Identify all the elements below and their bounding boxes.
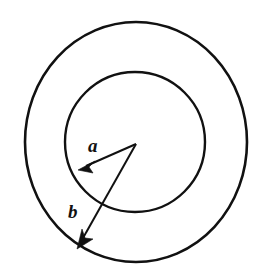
inner-circle bbox=[65, 72, 205, 212]
annulus-figure: Annulus with inner radius a and outer ra… bbox=[0, 0, 265, 279]
annulus-diagram-canvas: Annulus with inner radius a and outer ra… bbox=[0, 0, 265, 279]
radius-arrow-b bbox=[77, 144, 136, 249]
radius-label-a: a bbox=[88, 135, 98, 156]
radius-a-arrowhead-icon bbox=[78, 161, 95, 173]
radius-label-b: b bbox=[68, 201, 78, 222]
outer-circle bbox=[25, 22, 247, 262]
radius-b-arrowhead-icon bbox=[77, 229, 93, 249]
radius-b-line bbox=[83, 144, 136, 238]
